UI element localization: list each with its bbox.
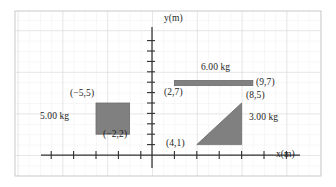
- square-top-corner-label: (−5,5): [70, 89, 94, 99]
- mass-bar-6kg: [174, 80, 252, 85]
- triangle-mass-label: 3.00 kg: [249, 113, 278, 123]
- y-axis-label: y(m): [164, 14, 183, 24]
- x-axis-label: x(m): [276, 150, 295, 160]
- triangle-top-corner-label: (8,5): [246, 91, 265, 101]
- physics-coordinate-figure: y(m) x(m) 6.00 kg (2,7) (9,7) (−5,5) 5.0…: [0, 0, 336, 187]
- triangle-left-corner-label: (4,1): [166, 139, 185, 149]
- bar-right-corner-label: (9,7): [256, 78, 275, 88]
- bar-mass-label: 6.00 kg: [201, 63, 230, 73]
- square-bottom-corner-label: (−2,2): [103, 130, 127, 140]
- square-mass-label: 5.00 kg: [40, 112, 69, 122]
- bar-left-corner-label: (2,7): [164, 88, 183, 98]
